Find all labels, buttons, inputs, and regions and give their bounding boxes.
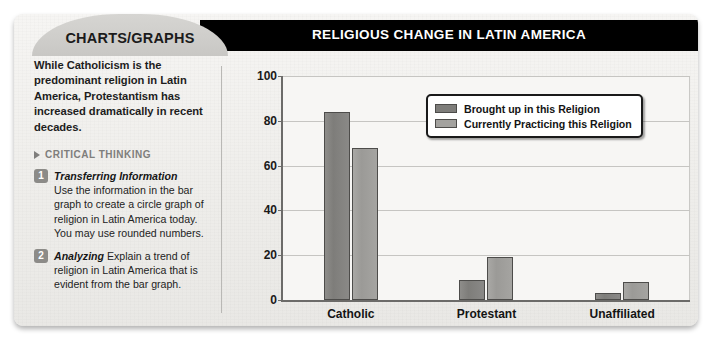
question-text: Use the information in the bar graph to … xyxy=(54,184,204,239)
bar-series-0 xyxy=(595,293,621,300)
bar-series-1 xyxy=(487,257,513,300)
bar-group: Catholic xyxy=(283,112,419,300)
y-axis-tick-mark xyxy=(278,76,283,77)
page-root: CHARTS/GRAPHS RELIGIOUS CHANGE IN LATIN … xyxy=(0,0,712,357)
legend-label-series-1: Currently Practicing this Religion xyxy=(464,118,632,130)
legend-swatch-series-1 xyxy=(435,119,457,128)
left-text-panel: While Catholicism is the predominant rel… xyxy=(34,58,210,292)
legend-item: Currently Practicing this Religion xyxy=(435,116,632,131)
y-axis-tick-label: 80 xyxy=(264,114,277,128)
critical-thinking-label: CRITICAL THINKING xyxy=(45,149,151,160)
chart-card: CHARTS/GRAPHS RELIGIOUS CHANGE IN LATIN … xyxy=(14,14,698,326)
y-axis-tick-label: 20 xyxy=(264,248,277,262)
y-axis-tick-label: 60 xyxy=(264,159,277,173)
legend-item: Brought up in this Religion xyxy=(435,101,632,116)
x-axis-label: Catholic xyxy=(327,307,374,321)
legend-swatch-series-0 xyxy=(435,104,457,113)
question-title: Analyzing xyxy=(54,250,104,262)
question-number: 2 xyxy=(34,249,48,263)
bar-group: Unaffiliated xyxy=(554,282,690,300)
bar-chart: 020406080100CatholicProtestantUnaffiliat… xyxy=(229,58,698,320)
triangle-right-icon xyxy=(34,151,40,159)
question-title: Transferring Information xyxy=(54,170,177,182)
bar-series-0 xyxy=(324,112,350,300)
y-axis-tick-label: 100 xyxy=(257,69,277,83)
gridline xyxy=(283,76,690,77)
panel-divider xyxy=(221,66,222,313)
bar-series-0 xyxy=(459,280,485,300)
chart-title: RELIGIOUS CHANGE IN LATIN AMERICA xyxy=(214,27,684,42)
bar-series-1 xyxy=(352,148,378,300)
x-axis-label: Unaffiliated xyxy=(589,307,654,321)
y-axis-tick-label: 40 xyxy=(264,203,277,217)
bar-group: Protestant xyxy=(419,257,555,300)
y-axis-tick-label: 0 xyxy=(270,293,277,307)
bar-series-1 xyxy=(623,282,649,300)
section-tab-label: CHARTS/GRAPHS xyxy=(32,30,228,46)
intro-paragraph: While Catholicism is the predominant rel… xyxy=(34,58,210,135)
question-item: 1 Transferring Information Use the infor… xyxy=(34,169,210,240)
plot-right-edge xyxy=(689,76,690,300)
question-number: 1 xyxy=(34,169,48,183)
question-body: Analyzing Explain a trend of religion in… xyxy=(54,249,210,292)
x-axis-label: Protestant xyxy=(457,307,516,321)
question-body: Transferring Information Use the informa… xyxy=(54,169,210,240)
question-item: 2 Analyzing Explain a trend of religion … xyxy=(34,249,210,292)
critical-thinking-heading: CRITICAL THINKING xyxy=(34,149,210,160)
legend-label-series-0: Brought up in this Religion xyxy=(464,103,600,115)
y-axis-tick-mark xyxy=(278,300,283,301)
chart-legend: Brought up in this Religion Currently Pr… xyxy=(426,94,643,138)
